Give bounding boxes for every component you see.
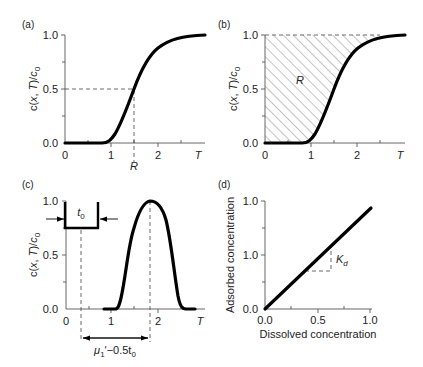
x-tick-label: 0.5 <box>310 314 325 326</box>
panel-a-x-axis: 0 1 2 T R <box>62 140 205 172</box>
figure-canvas: (a) 1.0 0.5 0.0 c(x, T)/c0 0 1 2 T R <box>0 0 423 367</box>
x-tick-label: 2 <box>155 315 161 327</box>
y-axis-title: c(x, T)/c0 <box>27 232 42 277</box>
x-tick-label: 0 <box>262 149 268 161</box>
kd-label: Kd <box>336 253 348 268</box>
y-tick-label: 0.0 <box>243 303 258 315</box>
y-axis-title: c(x, T)/c0 <box>27 66 42 111</box>
panel-d-y-axis: 1.0 1.0 0.0 Adsorbed concentration <box>224 195 265 315</box>
y-tick-label: 0.0 <box>243 137 258 149</box>
panel-c: (c) 1.0 0.5 0.0 c(x, T)/c0 0 1 2 T <box>22 179 205 359</box>
y-tick-label: 0.0 <box>43 303 58 315</box>
half-concentration-guide <box>65 89 134 162</box>
pulse-width-label: t0 <box>77 206 85 221</box>
x-tick-label: 1 <box>108 149 114 161</box>
y-tick-label: 1.0 <box>43 29 58 41</box>
y-tick-label: 1.0 <box>243 195 258 207</box>
retardation-hatched-area <box>265 35 380 143</box>
panel-c-y-axis: 1.0 0.5 0.0 c(x, T)/c0 <box>27 195 66 315</box>
x-tick-label: 0.0 <box>257 314 272 326</box>
panel-c-label: (c) <box>22 179 34 190</box>
panel-a: (a) 1.0 0.5 0.0 c(x, T)/c0 0 1 2 T R <box>22 19 205 172</box>
x-tick-label: 2 <box>155 149 161 161</box>
x-axis-title: T <box>197 315 205 327</box>
mean-travel-label: μ1′−0.5t0 <box>93 344 136 359</box>
y-axis-title: Adsorbed concentration <box>224 197 236 313</box>
y-tick-label: 0.5 <box>43 249 58 261</box>
panel-d-x-axis: 0.0 0.5 1.0 Dissolved concentration <box>257 306 377 340</box>
x-tick-label: 1.0 <box>362 314 377 326</box>
y-tick-label: 1.0 <box>243 249 258 261</box>
y-axis-title: c(x, T)/c0 <box>227 66 242 111</box>
panel-a-y-axis: 1.0 0.5 0.0 c(x, T)/c0 <box>27 29 65 149</box>
y-tick-label: 0.5 <box>43 83 58 95</box>
linear-isotherm-line <box>265 208 371 309</box>
panel-b: (b) 1.0 0.5 0.0 c(x, T)/c0 0 1 2 T R <box>218 19 405 161</box>
panel-d: (d) 1.0 1.0 0.0 Adsorbed concentration 0… <box>218 179 378 340</box>
y-tick-label: 0.0 <box>43 137 58 149</box>
x-tick-label: 1 <box>308 149 314 161</box>
y-tick-label: 1.0 <box>43 195 58 207</box>
y-tick-label: 0.5 <box>243 83 258 95</box>
y-tick-label: 1.0 <box>243 29 258 41</box>
x-tick-label: 0 <box>63 315 69 327</box>
annotation-r: R <box>296 74 304 86</box>
pulse-response-curve <box>104 201 195 309</box>
x-tick-label: 0 <box>62 149 68 161</box>
x-axis-title: T <box>195 149 203 161</box>
x-axis-title: Dissolved concentration <box>260 328 377 340</box>
panel-b-label: (b) <box>218 19 230 30</box>
panel-d-label: (d) <box>218 179 230 190</box>
x-tick-label: 1 <box>108 315 114 327</box>
x-tick-label: 2 <box>354 149 360 161</box>
panel-a-label: (a) <box>22 19 34 30</box>
x-axis-title: T <box>397 149 405 161</box>
panel-b-y-axis: 1.0 0.5 0.0 c(x, T)/c0 <box>227 29 265 149</box>
